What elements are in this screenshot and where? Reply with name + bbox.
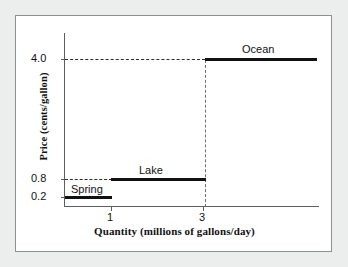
x-tick-label-1: 1 [107,211,113,223]
supply-segment-ocean [205,58,317,61]
x-tick-label-3: 3 [199,211,205,223]
x-axis-line [64,206,319,207]
segment-label-lake: Lake [139,164,163,176]
supply-segment-lake [111,178,206,181]
supply-segment-spring [65,196,112,199]
figure-root: Spring Lake Ocean 4.0 0.8 0.2 1 3 Price … [0,0,348,267]
x-axis-title: Quantity (millions of gallons/day) [16,225,333,237]
segment-label-ocean: Ocean [242,43,274,55]
segment-label-spring: Spring [71,183,103,195]
y-tick-label-0-2: 0.2 [31,190,46,202]
y-axis-title: Price (cents/gallon) [38,42,49,192]
guideline-quantity-3 [205,60,206,207]
guideline-price-0-8 [65,179,112,180]
guideline-price-4-0 [65,59,205,60]
chart-panel: Spring Lake Ocean 4.0 0.8 0.2 1 3 Price … [15,15,332,252]
